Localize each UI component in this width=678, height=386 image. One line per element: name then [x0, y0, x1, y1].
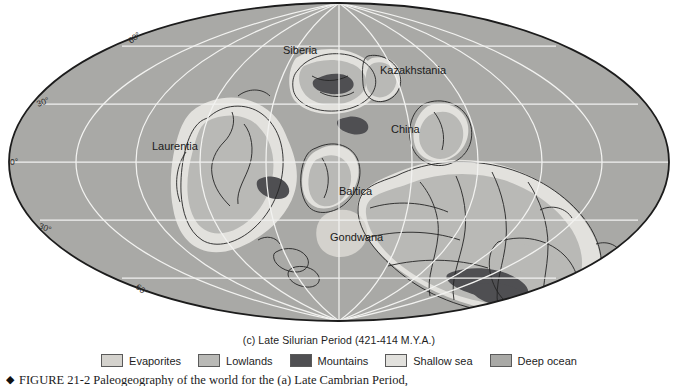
world-map: Siberia Kazakhstania Laurentia China Bal…: [0, 0, 678, 330]
legend-swatch-mountains: [290, 354, 312, 367]
figure-caption: ◆ FIGURE 21-2 Paleogeography of the worl…: [6, 374, 674, 386]
label-china: China: [391, 123, 421, 135]
legend-label-evaporites: Evaporites: [129, 355, 181, 367]
legend-item-evaporites: Evaporites: [101, 354, 181, 367]
map-legend: Evaporites Lowlands Mountains Shallow se…: [0, 354, 678, 367]
legend-item-lowlands: Lowlands: [198, 354, 272, 367]
caption-text: FIGURE 21-2 Paleogeography of the world …: [19, 374, 408, 386]
legend-item-deep-ocean: Deep ocean: [490, 354, 577, 367]
legend-swatch-lowlands: [198, 354, 220, 367]
legend-item-shallow-sea: Shallow sea: [385, 354, 472, 367]
caption-marker-icon: ◆: [6, 374, 14, 385]
label-siberia: Siberia: [283, 44, 318, 56]
legend-item-mountains: Mountains: [290, 354, 369, 367]
legend-label-deep-ocean: Deep ocean: [518, 355, 577, 367]
legend-swatch-shallow-sea: [385, 354, 407, 367]
map-svg: Siberia Kazakhstania Laurentia China Bal…: [0, 0, 678, 330]
legend-swatch-deep-ocean: [490, 354, 512, 367]
legend-label-lowlands: Lowlands: [226, 355, 272, 367]
map-subtitle: (c) Late Silurian Period (421-414 M.Y.A.…: [0, 334, 678, 346]
label-baltica: Baltica: [339, 185, 373, 197]
label-gondwana: Gondwana: [330, 231, 384, 243]
legend-swatch-evaporites: [101, 354, 123, 367]
label-laurentia: Laurentia: [152, 140, 199, 152]
lat-label-0: 0°: [10, 157, 18, 167]
figure-paleogeography-late-silurian: Siberia Kazakhstania Laurentia China Bal…: [0, 0, 678, 386]
label-kazakhstania: Kazakhstania: [380, 64, 447, 76]
legend-label-shallow-sea: Shallow sea: [413, 355, 472, 367]
legend-label-mountains: Mountains: [318, 355, 369, 367]
